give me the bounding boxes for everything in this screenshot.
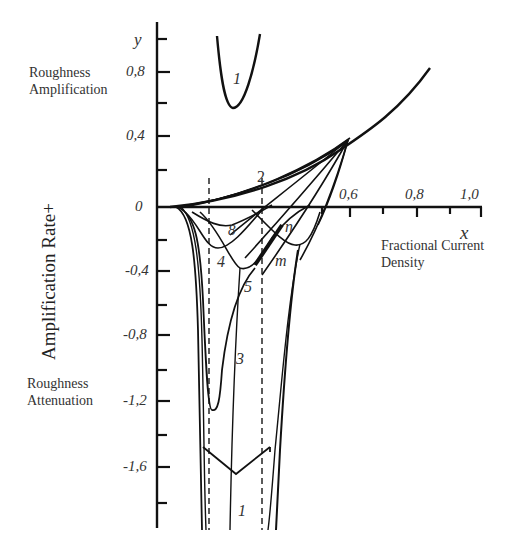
x-axis-title: Fractional Current Density xyxy=(381,237,491,271)
y-tick-label: -0,4 xyxy=(125,262,149,279)
region-label-attenuation: Roughness Attenuation xyxy=(27,375,117,409)
y-tick-label: 0,4 xyxy=(126,127,145,144)
curve-m xyxy=(276,250,298,530)
curve-label-1-lower: 1 xyxy=(238,502,246,520)
x-tick-label: 0,6 xyxy=(339,186,358,203)
y-tick-label: -1,6 xyxy=(123,458,147,475)
x-ticks xyxy=(322,207,481,217)
axes xyxy=(157,22,482,528)
curve-label-m: m xyxy=(275,252,287,270)
curve-label-8: 8 xyxy=(228,222,236,239)
y-ticks xyxy=(157,39,170,503)
curve-1-left xyxy=(176,207,202,530)
y-tick-label: 0 xyxy=(135,198,143,215)
curve-label-n: n xyxy=(285,218,293,236)
y-axis-symbol: y xyxy=(134,30,142,50)
region-label-amplification: Roughness Amplification xyxy=(29,64,129,98)
y-tick-label: -1,2 xyxy=(123,392,147,409)
y-axis-title: Amplification Rate+ xyxy=(38,203,60,360)
curve-label-4: 4 xyxy=(217,253,225,271)
curve-label-2: 2 xyxy=(257,168,265,186)
x-tick-label: 0,8 xyxy=(405,186,424,203)
curve-label-5: 5 xyxy=(244,278,252,296)
curve-label-1-upper: 1 xyxy=(233,70,241,88)
curve-1-lower xyxy=(203,447,270,474)
y-tick-label: -0,8 xyxy=(123,326,147,343)
curve-3 xyxy=(178,207,255,410)
curve-label-3: 3 xyxy=(236,350,244,368)
x-tick-label: 1,0 xyxy=(460,186,479,203)
